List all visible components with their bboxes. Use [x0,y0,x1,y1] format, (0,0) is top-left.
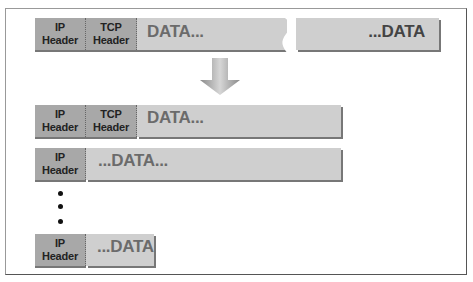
tcp-header-cell: TCP Header [86,18,137,50]
data-text: ...DATA... [98,151,168,171]
data-text: DATA... [147,108,204,128]
tcp-header-cell: TCP Header [86,105,137,137]
data-cell: ...DATA... [86,148,341,180]
ip-header-line2: Header [35,34,85,47]
ip-header-cell: IP Header [35,18,86,50]
ellipsis-dot [58,219,63,224]
ip-header-line2: Header [35,250,85,263]
data-start-text: DATA... [147,22,204,42]
ip-header-line2: Header [35,164,85,177]
tcp-header-line1: TCP [86,21,136,34]
ip-header-line2: Header [35,121,85,134]
down-arrow-icon [199,58,241,96]
ip-header-line1: IP [35,21,85,34]
tcp-header-line1: TCP [86,108,136,121]
ellipsis-dot [58,191,63,196]
ip-header-cell: IP Header [35,148,86,180]
ip-header-line1: IP [35,237,85,250]
data-text: ...DATA [97,237,154,257]
ip-header-line1: IP [35,151,85,164]
data-end-text: ...DATA [368,22,425,42]
data-end-cell: ...DATA [296,18,439,50]
ip-header-cell: IP Header [35,234,86,266]
ip-header-cell: IP Header [35,105,86,137]
tcp-header-line2: Header [86,121,136,134]
data-start-cell: DATA... [137,18,287,50]
data-cell: DATA... [137,105,341,137]
ellipsis-dot [58,204,63,209]
data-cell: ...DATA [86,234,154,266]
ip-header-line1: IP [35,108,85,121]
tcp-header-line2: Header [86,34,136,47]
